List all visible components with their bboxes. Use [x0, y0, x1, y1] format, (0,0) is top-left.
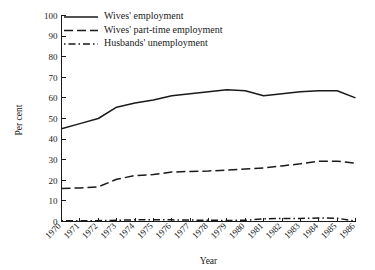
- y-tick-label: 10: [49, 196, 59, 206]
- x-tick-label: 1983: [282, 220, 302, 240]
- y-tick-label: 40: [49, 134, 59, 144]
- series-line-0: [62, 90, 356, 129]
- x-tick-label: 1974: [117, 220, 137, 240]
- x-tick-label: 1986: [337, 220, 357, 240]
- x-tick-label: 1977: [172, 220, 192, 240]
- line-chart: 0102030405060708090100 19701971197219731…: [0, 0, 375, 270]
- x-tick-label: 1982: [264, 221, 284, 241]
- y-axis-title: Per cent: [14, 104, 24, 135]
- x-tick-label: 1978: [190, 220, 210, 240]
- y-tick-label: 50: [49, 114, 59, 124]
- legend-label-0: Wives' employment: [104, 10, 184, 21]
- y-tick-label: 70: [49, 73, 59, 83]
- x-tick-label: 1970: [43, 220, 63, 240]
- x-tick-label: 1975: [135, 220, 155, 240]
- series-layer: [62, 90, 356, 221]
- x-tick-label: 1980: [227, 220, 247, 240]
- y-tick-label: 80: [49, 52, 59, 62]
- x-tick-label: 1985: [319, 220, 339, 240]
- y-axis: 0102030405060708090100: [44, 11, 66, 227]
- x-tick-label: 1979: [208, 220, 228, 240]
- x-axis: 1970197119721973197419751976197719781979…: [43, 218, 357, 241]
- chart-legend: Wives' employmentWives' part-time employ…: [64, 10, 223, 48]
- y-tick-label: 20: [49, 176, 59, 186]
- chart-canvas: 0102030405060708090100 19701971197219731…: [0, 0, 375, 270]
- y-tick-label: 100: [44, 11, 58, 21]
- legend-label-2: Husbands' unemployment: [104, 37, 208, 48]
- x-tick-label: 1971: [61, 221, 81, 241]
- x-tick-label: 1981: [245, 221, 265, 241]
- x-tick-label: 1976: [153, 220, 173, 240]
- y-tick-label: 60: [49, 93, 59, 103]
- y-tick-label: 90: [49, 31, 59, 41]
- x-tick-label: 1972: [80, 221, 100, 241]
- x-tick-label: 1984: [300, 220, 320, 240]
- y-tick-label: 30: [49, 155, 59, 165]
- x-tick-label: 1973: [98, 220, 118, 240]
- legend-label-1: Wives' part-time employment: [104, 24, 223, 35]
- x-axis-title: Year: [200, 256, 218, 266]
- series-line-1: [62, 161, 356, 188]
